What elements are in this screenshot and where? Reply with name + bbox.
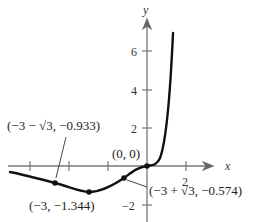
x-axis-label: x: [224, 159, 231, 173]
point-left-a: [52, 180, 58, 186]
point-right-a: [121, 175, 127, 181]
function-graph: 6 4 2 −2 2 y x (−3 − √3, −0.933) (0, 0) …: [0, 0, 275, 222]
point-origin: [144, 163, 150, 169]
point-min: [86, 189, 92, 195]
leader-right-a: [127, 180, 147, 187]
label-origin: (0, 0): [112, 146, 140, 161]
label-right-a: (−3 + √3, −0.574): [149, 183, 242, 198]
y-tick-2: 2: [131, 122, 137, 136]
y-axis-label: y: [142, 3, 149, 17]
y-tick-4: 4: [131, 84, 137, 98]
y-tick-neg2: −2: [122, 199, 135, 213]
label-min: (−3, −1.344): [29, 198, 95, 213]
y-tick-6: 6: [131, 45, 137, 59]
label-left-a: (−3 − √3, −0.933): [7, 118, 100, 133]
leader-left-a: [56, 137, 66, 178]
